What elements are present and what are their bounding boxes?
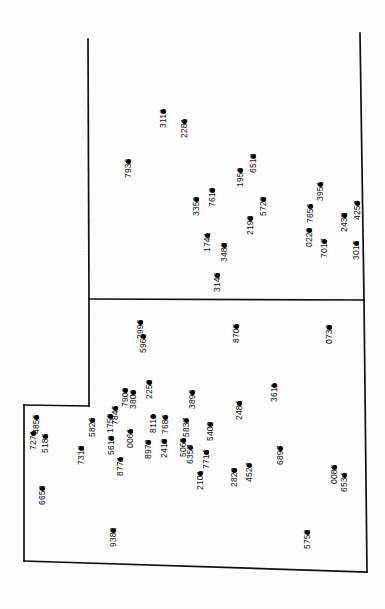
survey-point-label: 5402	[205, 421, 215, 441]
survey-point-label: 7686	[160, 414, 170, 434]
survey-point-label: 2253	[144, 379, 154, 399]
survey-point-label: 0061	[125, 428, 135, 448]
survey-point-label: 7271	[28, 430, 38, 450]
survey-point-label: 5752	[302, 529, 312, 549]
survey-point-label: 7656	[305, 203, 315, 223]
survey-point-label: 3611	[269, 383, 279, 402]
survey-point-label: 0086	[329, 464, 339, 484]
horizontal-divider	[89, 299, 364, 300]
survey-point-label: 2101	[195, 470, 205, 490]
survey-point-label: 8973	[143, 439, 153, 459]
left-notch-horizontal	[24, 405, 89, 406]
survey-point-label: 7936	[123, 158, 133, 178]
survey-point-label: 3488	[219, 242, 229, 262]
survey-point-label: 1959	[235, 167, 245, 187]
survey-point-label: 6534	[339, 472, 349, 492]
survey-point-label: 0228	[304, 227, 314, 247]
survey-point-label: 3113	[158, 109, 168, 128]
survey-point-label: 8119	[148, 414, 158, 433]
survey-point-label: 8705	[231, 323, 241, 343]
survey-point-label: 2484	[234, 400, 244, 420]
survey-point-label: 5610	[106, 435, 116, 455]
top-left-vertical-edge	[88, 39, 89, 299]
survey-point-label: 2418	[159, 438, 169, 458]
survey-point-label: 3809	[128, 389, 138, 409]
survey-point-label: 3951	[315, 181, 325, 201]
survey-point-label: 0738	[324, 324, 334, 344]
survey-point-label: 5186	[40, 433, 50, 453]
survey-point-label: 6357	[185, 444, 195, 464]
survey-point-label: 3359	[191, 196, 201, 216]
survey-point-label: 7318	[76, 445, 86, 465]
survey-point-label: 6513	[248, 153, 258, 173]
survey-point-label: 4527	[244, 462, 254, 482]
survey-point-label: 6658	[37, 485, 47, 505]
survey-point-label: 2192	[245, 215, 255, 235]
survey-point-label: 9382	[108, 527, 118, 547]
survey-point-label: 7618	[207, 187, 217, 207]
survey-point-label: 5722	[258, 196, 268, 216]
scan-texture-overlay	[0, 0, 385, 609]
survey-point-label: 6897	[275, 445, 285, 465]
survey-point-label: 3146	[212, 272, 222, 292]
bottom-edge	[24, 561, 367, 572]
survey-point-label: 3016	[351, 240, 361, 260]
survey-point-label: 2281	[179, 118, 189, 138]
right-lower-vertical	[364, 300, 367, 572]
survey-point-label: 7017	[319, 238, 329, 258]
parcel-boundary-graphic	[0, 0, 385, 609]
survey-point-label: 1741	[202, 232, 212, 252]
survey-point-label: 2828	[229, 467, 239, 487]
survey-point-label: 7714	[201, 449, 211, 469]
survey-point-label: 4250	[352, 200, 362, 220]
survey-point-label: 8771	[115, 456, 125, 476]
survey-map-canvas: 7936311322816513195976183359395157227656…	[0, 0, 385, 609]
survey-point-label: 5826	[87, 417, 97, 437]
survey-point-label: 5837	[181, 417, 191, 437]
survey-point-label: 1759	[105, 413, 115, 433]
survey-point-label: 3896	[187, 389, 197, 409]
survey-point-label: 5969	[138, 333, 148, 353]
survey-point-label: 2432	[339, 212, 349, 232]
